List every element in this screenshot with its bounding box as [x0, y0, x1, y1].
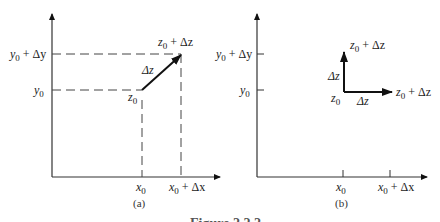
y-tick-label-y0: y0	[33, 83, 44, 99]
point-label-z0: z0	[127, 90, 138, 106]
point-label-horizontal-end: z0 + Δz	[395, 85, 431, 101]
vector-label-dz: Δz	[141, 63, 154, 77]
point-label-vertical-end: z0 + Δz	[349, 38, 385, 54]
x-tick-label-x0-plus-dx: x0 + Δx	[168, 180, 205, 196]
x-tick-label-x0: x0	[335, 180, 346, 196]
vertical-vector-label: Δz	[327, 69, 340, 83]
point-label-z0: z0	[330, 91, 341, 107]
x-tick-label-x0: x0	[135, 180, 146, 196]
panel-caption-b: (b)	[335, 197, 348, 210]
y-tick-label-y0: y0	[239, 83, 250, 99]
panel-b: y0 + Δy y0 x0 x0 + Δx z0 z0 + Δz z0 + Δz…	[215, 14, 431, 210]
y-tick-label-y0-plus-dy: y0 + Δy	[215, 47, 252, 63]
panel-caption-a: (a)	[133, 197, 146, 210]
y-tick-label-y0-plus-dy: y0 + Δy	[9, 47, 46, 63]
horizontal-vector-label: Δz	[356, 94, 369, 108]
point-label-z0-plus-dz: z0 + Δz	[157, 35, 193, 51]
figure-canvas: y0 + Δy y0 x0 x0 + Δx z0 z0 + Δz Δz (a) …	[0, 0, 440, 222]
x-tick-label-x0-plus-dx: x0 + Δx	[377, 180, 414, 196]
figure-caption: Figure 2.2.2	[190, 216, 261, 222]
panel-a: y0 + Δy y0 x0 x0 + Δx z0 z0 + Δz Δz (a)	[9, 14, 220, 210]
